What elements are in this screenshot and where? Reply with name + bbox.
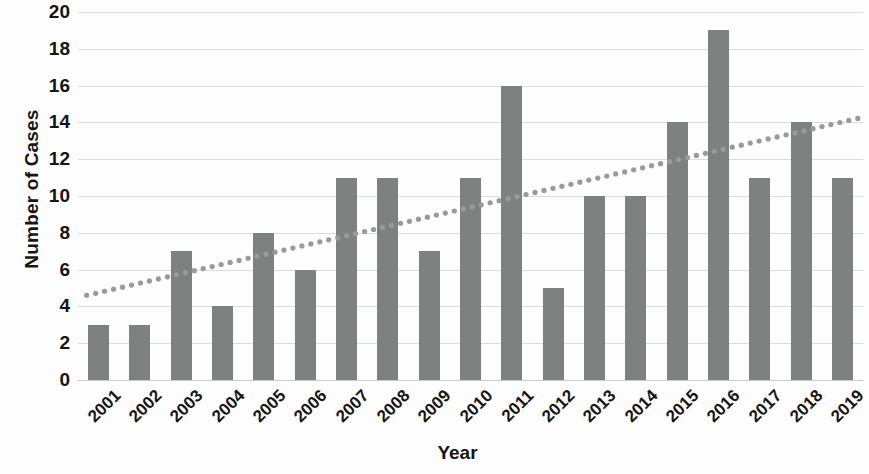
y-tick-label: 20	[22, 1, 70, 23]
bar[interactable]	[460, 178, 481, 380]
bar[interactable]	[584, 196, 605, 380]
y-tick-label: 14	[22, 111, 70, 133]
bar[interactable]	[667, 122, 688, 380]
y-tick-label: 0	[22, 369, 70, 391]
bar[interactable]	[832, 178, 853, 380]
y-tick-label: 6	[22, 259, 70, 281]
bar[interactable]	[501, 86, 522, 380]
bar[interactable]	[88, 325, 109, 380]
bar[interactable]	[129, 325, 150, 380]
y-tick-label: 16	[22, 75, 70, 97]
x-axis-title: Year	[0, 442, 869, 464]
gridline	[78, 159, 863, 160]
gridline	[78, 12, 863, 13]
y-tick-label: 10	[22, 185, 70, 207]
gridline	[78, 49, 863, 50]
y-tick-label: 18	[22, 38, 70, 60]
bar[interactable]	[419, 251, 440, 380]
bar[interactable]	[708, 30, 729, 380]
bar[interactable]	[377, 178, 398, 380]
y-tick-label: 2	[22, 332, 70, 354]
gridline	[78, 86, 863, 87]
y-tick-label: 4	[22, 295, 70, 317]
y-tick-label: 12	[22, 148, 70, 170]
bar[interactable]	[253, 233, 274, 380]
bar[interactable]	[625, 196, 646, 380]
gridline	[78, 122, 863, 123]
bar[interactable]	[295, 270, 316, 380]
bar-chart: Number of Cases 02468101214161820 200120…	[0, 0, 869, 474]
y-tick-label: 8	[22, 222, 70, 244]
plot-area	[78, 12, 863, 380]
bar[interactable]	[171, 251, 192, 380]
bar[interactable]	[791, 122, 812, 380]
bar[interactable]	[336, 178, 357, 380]
bar[interactable]	[749, 178, 770, 380]
bar[interactable]	[212, 306, 233, 380]
x-axis-tick-labels: 2001200220032004200520062007200820092010…	[78, 380, 863, 440]
bar[interactable]	[543, 288, 564, 380]
